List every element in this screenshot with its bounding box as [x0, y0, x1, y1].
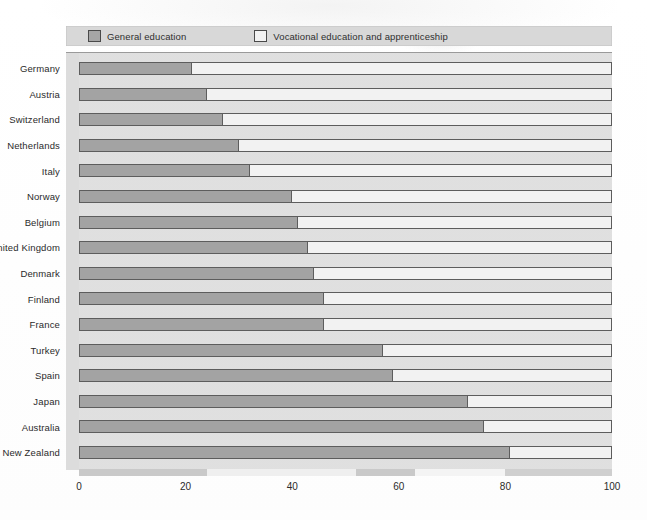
- bar-segment-general-education: [80, 114, 223, 125]
- bar-row: France: [66, 312, 612, 338]
- x-axis-tick-label: 20: [180, 481, 191, 492]
- bar-row-label: Austria: [29, 89, 60, 100]
- bar-row-label: Norway: [27, 191, 60, 202]
- x-axis-tick-label: 100: [604, 481, 621, 492]
- bar-segment-general-education: [80, 319, 324, 330]
- stacked-bar: [79, 369, 612, 382]
- bar-segment-general-education: [80, 89, 207, 100]
- bar-row: Denmark: [66, 261, 612, 287]
- x-axis-tick-label: 60: [393, 481, 404, 492]
- bar-row-label: Italy: [42, 166, 60, 177]
- x-axis-tick-label: 80: [500, 481, 511, 492]
- bar-row-label: Denmark: [20, 268, 60, 279]
- stacked-bar-chart: General education Vocational education a…: [0, 0, 647, 520]
- bar-row-label: France: [30, 319, 60, 330]
- bar-row-label: Spain: [35, 370, 60, 381]
- stacked-bar: [79, 88, 612, 101]
- bar-segment-general-education: [80, 165, 250, 176]
- bar-segment-general-education: [80, 293, 324, 304]
- bar-row: Norway: [66, 184, 612, 210]
- stacked-bar: [79, 139, 612, 152]
- stacked-bar: [79, 216, 612, 229]
- axis-baseline-strip: [79, 469, 612, 476]
- bar-row-label: Japan: [33, 396, 60, 407]
- bar-row: Belgium: [66, 210, 612, 236]
- bar-row-label: New Zealand: [2, 447, 60, 458]
- bar-row: Italy: [66, 158, 612, 184]
- bar-row: Germany: [66, 56, 612, 82]
- bar-row: Switzerland: [66, 107, 612, 133]
- x-axis: 020406080100: [79, 481, 612, 497]
- legend-item-vocational-education: Vocational education and apprenticeship: [254, 30, 448, 42]
- plot-area: GermanyAustriaSwitzerlandNetherlandsItal…: [66, 52, 612, 470]
- legend-swatch-filled-icon: [88, 30, 101, 42]
- stacked-bar: [79, 292, 612, 305]
- bar-row-label: Belgium: [25, 217, 60, 228]
- bar-row: Austria: [66, 82, 612, 108]
- bar-row: Finland: [66, 286, 612, 312]
- bar-segment-general-education: [80, 63, 192, 74]
- bar-row: Netherlands: [66, 133, 612, 159]
- bar-row-label: Turkey: [30, 345, 60, 356]
- legend-item-general-education: General education: [88, 30, 186, 42]
- chart-legend: General education Vocational education a…: [66, 26, 612, 46]
- stacked-bar: [79, 318, 612, 331]
- bar-rows: GermanyAustriaSwitzerlandNetherlandsItal…: [66, 53, 612, 470]
- bar-segment-general-education: [80, 447, 510, 458]
- bar-row: Spain: [66, 363, 612, 389]
- bar-row-label: United Kingdom: [0, 242, 60, 253]
- legend-swatch-empty-icon: [254, 30, 267, 42]
- bar-row: Turkey: [66, 338, 612, 364]
- bar-row-label: Netherlands: [7, 140, 60, 151]
- bar-segment-general-education: [80, 268, 314, 279]
- bar-segment-general-education: [80, 191, 292, 202]
- bar-segment-general-education: [80, 421, 484, 432]
- x-axis-tick-label: 40: [287, 481, 298, 492]
- bar-segment-general-education: [80, 217, 298, 228]
- stacked-bar: [79, 420, 612, 433]
- bar-segment-general-education: [80, 140, 239, 151]
- bar-segment-general-education: [80, 242, 308, 253]
- stacked-bar: [79, 344, 612, 357]
- bar-row-label: Finland: [28, 294, 60, 305]
- legend-label-vocational-education: Vocational education and apprenticeship: [273, 31, 448, 42]
- stacked-bar: [79, 113, 612, 126]
- bar-segment-general-education: [80, 370, 393, 381]
- bar-row: Japan: [66, 389, 612, 415]
- bar-row: Australia: [66, 414, 612, 440]
- stacked-bar: [79, 241, 612, 254]
- stacked-bar: [79, 267, 612, 280]
- bar-segment-general-education: [80, 396, 468, 407]
- legend-label-general-education: General education: [107, 31, 186, 42]
- stacked-bar: [79, 395, 612, 408]
- bar-row: New Zealand: [66, 440, 612, 466]
- stacked-bar: [79, 446, 612, 459]
- stacked-bar: [79, 190, 612, 203]
- bar-row-label: Switzerland: [9, 114, 60, 125]
- bar-row-label: Germany: [20, 63, 60, 74]
- bar-segment-general-education: [80, 345, 383, 356]
- bar-row: United Kingdom: [66, 235, 612, 261]
- stacked-bar: [79, 164, 612, 177]
- x-axis-tick-label: 0: [76, 481, 82, 492]
- bar-row-label: Australia: [22, 422, 60, 433]
- stacked-bar: [79, 62, 612, 75]
